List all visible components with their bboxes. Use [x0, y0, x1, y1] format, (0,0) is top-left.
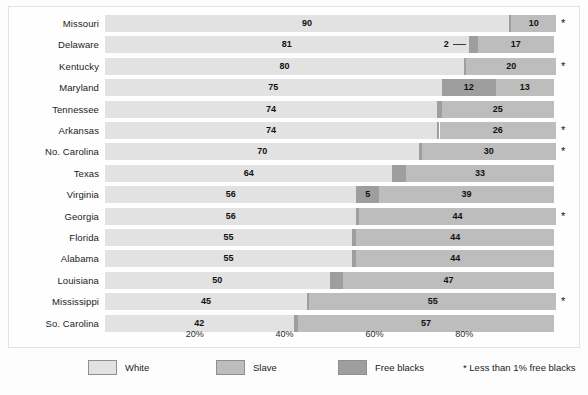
chart-row: Virginia56539 — [9, 186, 581, 203]
chart-row: Mississippi4555* — [9, 293, 581, 310]
chart-row: Texas64333 — [9, 165, 581, 182]
row-label-no-carolina: No. Carolina — [9, 143, 99, 160]
row-label-alabama: Alabama — [9, 250, 99, 267]
value-label: 13 — [496, 79, 554, 96]
value-label: 75 — [105, 79, 442, 96]
value-label: 74 — [105, 101, 437, 118]
value-label: 44 — [356, 229, 554, 246]
x-axis: 20%40%60%80% — [9, 327, 581, 341]
chart-legend: WhiteSlaveFree blacks* Less than 1% free… — [8, 352, 580, 390]
legend-swatch-icon — [88, 360, 117, 375]
chart-row: No. Carolina7030* — [9, 143, 581, 160]
value-label: 26 — [440, 122, 557, 139]
chart-panel: Missouri9010*Delaware81217Kentucky8020*M… — [8, 6, 580, 348]
legend-label: White — [125, 360, 149, 375]
value-label: 33 — [406, 165, 554, 182]
chart-row: Tennessee74125 — [9, 101, 581, 118]
value-label: 47 — [343, 272, 554, 289]
chart-row: Florida55144 — [9, 229, 581, 246]
callout-value: 2 — [444, 36, 449, 53]
chart-row: Delaware81217 — [9, 36, 581, 53]
value-label: 56 — [105, 186, 356, 203]
segment-free-blacks — [392, 165, 405, 182]
segment-free-blacks — [330, 272, 343, 289]
value-label: 55 — [105, 229, 352, 246]
chart-row: Kentucky8020* — [9, 58, 581, 75]
legend-swatch-icon — [338, 360, 367, 375]
chart-row: Louisiana50347 — [9, 272, 581, 289]
chart-row: Maryland751213 — [9, 79, 581, 96]
value-label: 17 — [478, 36, 554, 53]
x-tick-20: 20% — [175, 327, 215, 341]
footnote-asterisk: * — [561, 143, 565, 160]
row-label-tennessee: Tennessee — [9, 101, 99, 118]
row-label-missouri: Missouri — [9, 15, 99, 32]
footnote-asterisk: * — [561, 122, 565, 139]
value-label: 64 — [105, 165, 392, 182]
legend-footnote: * Less than 1% free blacks — [463, 360, 575, 376]
chart-row: Georgia5644* — [9, 208, 581, 225]
row-label-louisiana: Louisiana — [9, 272, 99, 289]
x-tick-80: 80% — [444, 327, 484, 341]
row-label-virginia: Virginia — [9, 186, 99, 203]
value-label: 56 — [105, 208, 356, 225]
x-tick-60: 60% — [354, 327, 394, 341]
chart-row: Alabama55144 — [9, 250, 581, 267]
row-label-kentucky: Kentucky — [9, 58, 99, 75]
value-label: 81 — [105, 36, 469, 53]
footnote-asterisk: * — [561, 208, 565, 225]
segment-free-blacks — [469, 36, 478, 53]
row-label-mississippi: Mississippi — [9, 293, 99, 310]
value-label: 10 — [511, 15, 556, 32]
value-label: 39 — [379, 186, 554, 203]
value-label: 55 — [309, 293, 556, 310]
row-label-maryland: Maryland — [9, 79, 99, 96]
footnote-asterisk: * — [561, 58, 565, 75]
value-label: 55 — [105, 250, 352, 267]
value-label: 20 — [466, 58, 556, 75]
row-label-texas: Texas — [9, 165, 99, 182]
footnote-asterisk: * — [561, 293, 565, 310]
value-label: 80 — [105, 58, 464, 75]
value-label: 25 — [442, 101, 554, 118]
row-label-arkansas: Arkansas — [9, 122, 99, 139]
chart-frame: Missouri9010*Delaware81217Kentucky8020*M… — [0, 0, 588, 395]
value-label: 44 — [356, 250, 554, 267]
row-label-delaware: Delaware — [9, 36, 99, 53]
legend-label: Free blacks — [375, 360, 424, 375]
footnote-asterisk: * — [561, 15, 565, 32]
value-label: 5 — [356, 186, 378, 203]
legend-swatch-icon — [216, 360, 245, 375]
value-label: 70 — [105, 143, 419, 160]
value-label: 12 — [442, 79, 496, 96]
callout-leader-line — [453, 44, 466, 45]
row-label-florida: Florida — [9, 229, 99, 246]
legend-label: Slave — [253, 360, 277, 375]
value-label: 74 — [105, 122, 437, 139]
row-label-georgia: Georgia — [9, 208, 99, 225]
value-label: 45 — [105, 293, 307, 310]
value-label: 50 — [105, 272, 330, 289]
x-tick-40: 40% — [265, 327, 305, 341]
value-label: 44 — [359, 208, 557, 225]
value-label: 30 — [422, 143, 557, 160]
chart-row: Missouri9010* — [9, 15, 581, 32]
chart-row: Arkansas7426* — [9, 122, 581, 139]
plot-area: Missouri9010*Delaware81217Kentucky8020*M… — [9, 7, 581, 349]
value-label: 90 — [105, 15, 509, 32]
